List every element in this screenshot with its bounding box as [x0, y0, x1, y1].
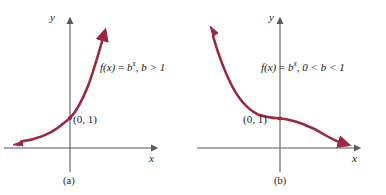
y-axis-label-a: y — [50, 12, 55, 23]
panel-b-graph — [193, 0, 386, 195]
x-axis-label-a: x — [149, 153, 154, 164]
exponential-growth-curve — [21, 38, 103, 142]
exponential-decay-curve — [213, 36, 341, 143]
x-axis-label-b: x — [352, 153, 357, 164]
function-label-b: f(x) = bx, 0 < b < 1 — [261, 62, 345, 73]
function-label-a: f(x) = bx, b > 1 — [100, 62, 165, 73]
curve-upper-arrowhead-b — [210, 26, 218, 37]
panel-a: y x (0, 1) f(x) = bx, b > 1 (a) — [0, 0, 193, 195]
curve-left-arrowhead-a — [13, 141, 23, 146]
intercept-label-a: (0, 1) — [73, 114, 97, 125]
function-condition-a: b > 1 — [141, 61, 165, 73]
exponential-functions-figure: y x (0, 1) f(x) = bx, b > 1 (a) — [0, 0, 386, 195]
function-condition-b: 0 < b < 1 — [302, 61, 344, 73]
panel-caption-b: (b) — [274, 176, 286, 187]
y-axis-label-b: y — [269, 12, 274, 23]
intercept-point-b — [278, 116, 282, 120]
intercept-label-b: (0, 1) — [243, 114, 267, 125]
function-lhs-b: f(x) — [261, 61, 276, 73]
panel-caption-a: (a) — [63, 176, 75, 187]
function-lhs-a: f(x) — [100, 61, 115, 73]
panel-a-graph — [0, 0, 193, 195]
intercept-point-a — [68, 116, 72, 120]
panel-b: y x (0, 1) f(x) = bx, 0 < b < 1 (b) — [193, 0, 386, 195]
